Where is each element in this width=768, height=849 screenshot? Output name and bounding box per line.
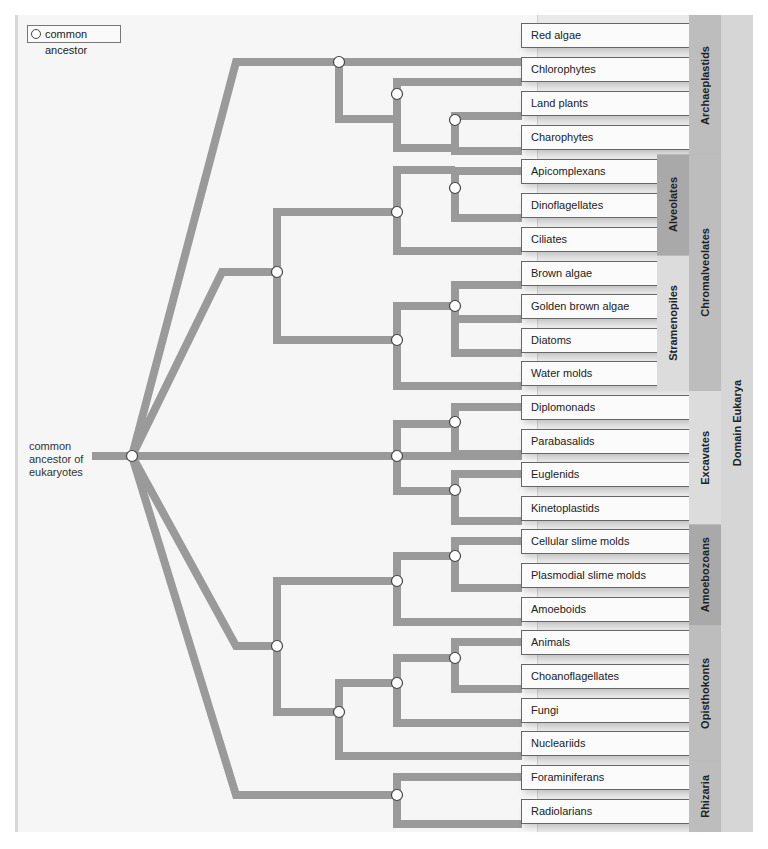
subgroup-column: Stramenopiles <box>657 255 689 390</box>
node-icon <box>392 207 403 218</box>
root-label-line: eukaryotes <box>29 466 83 479</box>
node-icon <box>334 707 345 718</box>
branch-unikonts <box>132 456 277 646</box>
node-icon <box>450 653 461 664</box>
taxon-label-box: Parabasalids <box>521 429 706 454</box>
taxon-label-box: Radiolarians <box>521 799 706 824</box>
legend-label: common ancestor <box>45 28 87 56</box>
branch-rhizaria <box>132 456 397 795</box>
group-column: Amoebozoans <box>689 524 721 625</box>
taxon-label-box: Chlorophytes <box>521 57 706 82</box>
group-column: Excavates <box>689 390 721 524</box>
node-icon <box>392 451 403 462</box>
group-column: Opisthokonts <box>689 625 721 760</box>
node-icon <box>450 417 461 428</box>
domain-column: Domain Eukarya <box>721 15 753 832</box>
taxon-label-box: Fungi <box>521 698 706 723</box>
node-icon <box>450 485 461 496</box>
taxon-label-box: Red algae <box>521 23 706 48</box>
taxon-label-box: Amoeboids <box>521 597 706 622</box>
root-label-line: ancestor of <box>29 453 83 466</box>
tree-branches <box>92 62 522 824</box>
node-icon <box>392 335 403 346</box>
root-node-icon <box>127 451 138 462</box>
subgroup-column-label: Stramenopiles <box>667 285 679 361</box>
taxon-label-box: Kinetoplastids <box>521 496 706 521</box>
group-column: Rhizaria <box>689 760 721 832</box>
branch-archaeplastids <box>132 62 522 456</box>
taxon-label-box: Foraminiferans <box>521 765 706 790</box>
subgroup-column-label: Alveolates <box>667 177 679 232</box>
taxon-label-box: Animals <box>521 630 706 655</box>
node-icon <box>450 301 461 312</box>
taxon-label-box: Nucleariids <box>521 731 706 756</box>
taxon-label-box: Plasmodial slime molds <box>521 563 706 588</box>
node-icon <box>334 57 345 68</box>
root-label: common ancestor of eukaryotes <box>29 440 83 479</box>
group-column-label: Excavates <box>699 431 711 485</box>
node-icon <box>272 641 283 652</box>
taxon-label-box: Charophytes <box>521 125 706 150</box>
node-icon <box>272 267 283 278</box>
node-icon <box>392 790 403 801</box>
group-column-label: Archaeplastids <box>699 46 711 125</box>
group-column: Archaeplastids <box>689 15 721 154</box>
node-icon <box>450 115 461 126</box>
subgroup-column: Alveolates <box>657 154 689 255</box>
group-column: Chromalveolates <box>689 154 721 390</box>
taxon-label-box: Euglenids <box>521 462 706 487</box>
circle-node-icon <box>31 29 41 39</box>
taxon-label-box: Land plants <box>521 91 706 116</box>
node-icon <box>450 551 461 562</box>
domain-label: Domain Eukarya <box>731 380 743 466</box>
group-column-label: Chromalveolates <box>699 228 711 317</box>
group-column-label: Opisthokonts <box>699 658 711 729</box>
root-label-line: common <box>29 440 83 453</box>
node-icon <box>450 183 461 194</box>
node-icon <box>392 89 403 100</box>
taxon-label-box: Diplomonads <box>521 395 706 420</box>
legend: common ancestor <box>27 25 121 43</box>
group-column-label: Amoebozoans <box>699 537 711 612</box>
node-icon <box>392 678 403 689</box>
taxon-label-box: Choanoflagellates <box>521 664 706 689</box>
node-icon <box>392 576 403 587</box>
group-column-label: Rhizaria <box>699 775 711 818</box>
taxon-label-box: Cellular slime molds <box>521 529 706 554</box>
